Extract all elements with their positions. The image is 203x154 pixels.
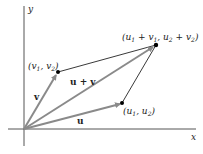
- edge-v-to-sum: [58, 45, 156, 72]
- edge-u-to-sum: [122, 45, 156, 103]
- label-point-u: (u1, u2): [123, 106, 156, 117]
- label-u: u: [77, 116, 84, 126]
- vector-u: [24, 104, 120, 129]
- point-sum: [154, 43, 158, 47]
- label-v: v: [33, 92, 40, 102]
- label-u-plus-v: u + v: [70, 77, 96, 87]
- label-point-v: (v1, v2): [28, 61, 59, 72]
- y-axis-label: y: [27, 4, 34, 14]
- label-point-sum: (u1 + v1, u2 + v2): [122, 32, 199, 43]
- vector-diagram: y x v u u + v (v1, v2) (u1, u2) (u1 + v1…: [0, 0, 203, 154]
- x-axis-label: x: [191, 132, 196, 142]
- point-u: [120, 101, 124, 105]
